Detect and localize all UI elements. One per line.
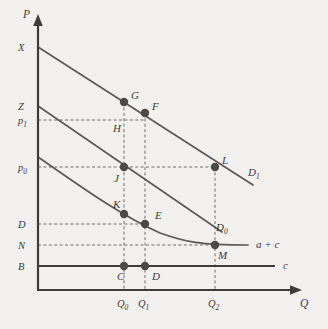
point-f-label: F [151,100,159,112]
point-c-label: C [117,270,125,282]
x-tick-label-0: Q0 [117,298,129,312]
average-plus-marginal-cost-curve-label: a + c [256,238,279,250]
x-tick-label-1: Q1 [138,298,149,312]
y-tick-label-0: X [17,42,25,53]
point-k-label: K [112,198,121,210]
x-axis-tick-labels: Q0Q1Q2 [117,298,220,312]
data-points-group: GFHJLKEMCD [112,89,228,282]
curves-group [38,47,275,266]
y-axis-arrowhead [33,14,43,26]
point-k-marker [120,210,128,218]
point-g-label: G [131,89,139,101]
point-g-marker [120,98,128,106]
y-tick-label-3: p0 [17,162,27,176]
y-tick-label-1: Z [18,101,24,112]
point-m-marker [211,241,219,249]
point-f-marker [141,109,149,117]
point-e-marker [141,220,149,228]
demand-curve-d0 [38,106,222,232]
y-tick-label-2: p1 [17,115,27,129]
point-l-label: L [221,154,228,166]
point-c-marker [120,262,128,270]
y-axis-tick-labels: XZp1p0DNB [17,42,27,272]
point-e-label: E [154,209,162,221]
demand-curve-d1-label: D1 [247,166,260,181]
point-j-marker [120,163,128,171]
y-tick-label-6: B [18,261,25,272]
economics-figure: P Q XZp1p0DNB Q0Q1Q2 D1D0a + cc GFHJLKEM… [0,0,328,329]
y-tick-label-5: N [17,240,26,251]
marginal-cost-line-label: c [283,259,288,271]
point-m-label: M [217,249,228,261]
point-d-marker [141,262,149,270]
x-axis-label: Q [300,297,309,309]
x-tick-label-2: Q2 [208,298,220,312]
y-axis-label: P [22,8,30,20]
demand-curve-d0-label: D0 [215,221,228,236]
point-d-label: D [151,270,160,282]
x-axis-arrowhead [290,285,302,295]
point-j-label: J [114,172,120,184]
supply-demand-diagram: P Q XZp1p0DNB Q0Q1Q2 D1D0a + cc GFHJLKEM… [0,0,328,329]
axes-group [33,14,302,295]
point-h-label: H [112,122,122,134]
y-tick-label-4: D [17,219,26,230]
point-l-marker [211,163,219,171]
guide-lines-group [38,102,215,290]
